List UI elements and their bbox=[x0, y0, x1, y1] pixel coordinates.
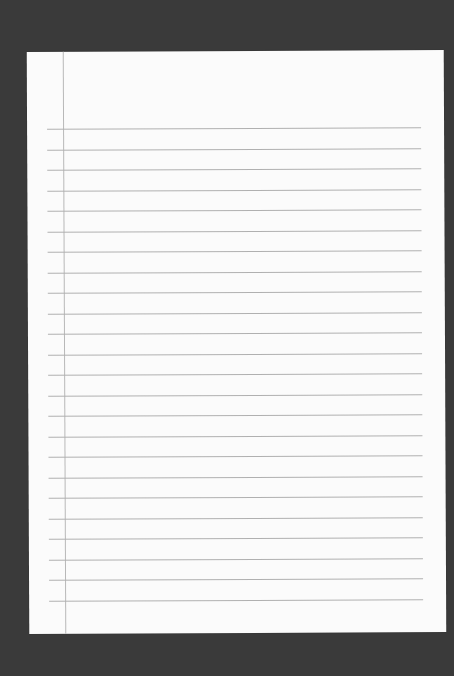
ruled-line bbox=[48, 373, 422, 376]
ruled-line bbox=[47, 209, 421, 212]
ruled-line bbox=[47, 189, 421, 192]
ruled-lines bbox=[27, 50, 444, 52]
ruled-line bbox=[48, 394, 422, 397]
ruled-line bbox=[48, 250, 422, 253]
ruled-line bbox=[47, 148, 421, 151]
margin-line bbox=[63, 52, 67, 634]
ruled-line bbox=[48, 435, 422, 438]
ruled-line bbox=[48, 414, 422, 417]
ruled-line bbox=[49, 517, 423, 520]
notebook-paper bbox=[27, 50, 447, 634]
ruled-line bbox=[49, 476, 423, 479]
ruled-line bbox=[48, 332, 422, 335]
ruled-line bbox=[49, 496, 423, 499]
ruled-line bbox=[49, 578, 423, 581]
ruled-line bbox=[48, 312, 422, 315]
ruled-line bbox=[49, 537, 423, 540]
ruled-line bbox=[47, 127, 421, 130]
ruled-line bbox=[47, 168, 421, 171]
ruled-line bbox=[48, 291, 422, 294]
ruled-line bbox=[49, 599, 423, 602]
ruled-line bbox=[48, 230, 422, 233]
ruled-line bbox=[49, 558, 423, 561]
ruled-line bbox=[48, 353, 422, 356]
ruled-line bbox=[48, 455, 422, 458]
ruled-line bbox=[48, 271, 422, 274]
